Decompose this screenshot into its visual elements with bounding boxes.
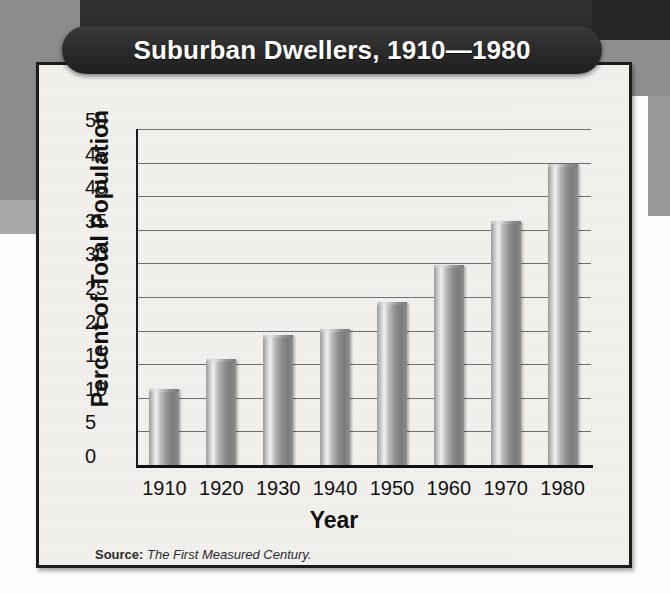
- page-background-dark-corner: [592, 0, 670, 40]
- gridline: [136, 297, 591, 298]
- gridline: [136, 129, 591, 130]
- bar: [320, 329, 350, 465]
- gridline: [136, 431, 591, 432]
- source-note: Source: The First Measured Century.: [95, 547, 312, 562]
- source-title: The First Measured Century.: [147, 547, 311, 562]
- y-tick-label: 30: [85, 244, 129, 264]
- bar: [149, 389, 179, 465]
- y-tick-label: 20: [85, 312, 129, 332]
- y-tick-label: 45: [85, 144, 129, 164]
- gridline: [136, 196, 591, 197]
- y-tick-label: 0: [85, 446, 129, 466]
- y-tick-label: 15: [85, 345, 129, 365]
- gridline: [136, 331, 591, 332]
- y-tick-label: 40: [85, 177, 129, 197]
- x-axis-line: [136, 465, 593, 468]
- gridline: [136, 230, 591, 231]
- bar: [548, 164, 578, 465]
- page-background-gray-left-lower: [0, 200, 36, 234]
- bar: [377, 302, 407, 465]
- y-tick-label: 5: [85, 412, 129, 432]
- y-tick-label: 25: [85, 278, 129, 298]
- gridline: [136, 398, 591, 399]
- x-axis-label: Year: [39, 507, 629, 534]
- chart-title-banner: Suburban Dwellers, 1910—1980: [62, 26, 602, 74]
- y-axis-line: [136, 129, 138, 467]
- bar: [434, 265, 464, 465]
- chart-title: Suburban Dwellers, 1910—1980: [133, 35, 530, 66]
- page-background-gray-edge: [648, 96, 670, 216]
- plot-area: [136, 129, 591, 465]
- gridline: [136, 364, 591, 365]
- y-tick-label: 35: [85, 211, 129, 231]
- source-label: Source:: [95, 547, 143, 562]
- y-tick-label: 10: [85, 379, 129, 399]
- bar: [206, 359, 236, 465]
- x-tick-label: 1980: [528, 477, 598, 500]
- bar: [491, 221, 521, 465]
- gridline: [136, 163, 591, 164]
- bar: [263, 335, 293, 465]
- y-tick-label: 50: [85, 110, 129, 130]
- gridline: [136, 263, 591, 264]
- chart-card: Percent of Total Population 051015202530…: [36, 62, 632, 568]
